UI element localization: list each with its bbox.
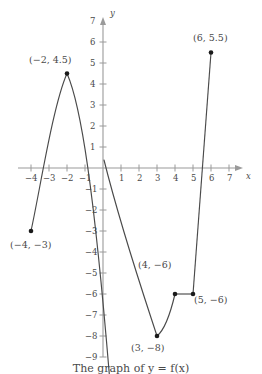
- x-tick-label-1: 1: [119, 174, 124, 183]
- y-tick-label-neg9: −9: [85, 353, 98, 362]
- point-6-55: [209, 50, 214, 55]
- marked-points-group: [29, 50, 214, 338]
- point-label-6-55: (6, 5.5): [193, 33, 228, 43]
- x-tick-label-neg4: −4: [25, 174, 38, 183]
- curve-left-parabola: [31, 74, 109, 374]
- axes-group: [18, 17, 243, 357]
- x-tick-label-4: 4: [173, 174, 178, 183]
- point-label-4-neg6: (4, −6): [138, 260, 172, 270]
- point-label-neg2-45: (−2, 4.5): [29, 55, 72, 65]
- curve-middle-parabola: [104, 160, 175, 336]
- y-tick-label-6: 6: [90, 38, 95, 47]
- x-tick-label-3: 3: [155, 174, 160, 183]
- y-tick-label-neg3: −3: [85, 227, 98, 236]
- point-3-neg8: [155, 334, 160, 339]
- y-tick-label-5: 5: [90, 59, 95, 68]
- x-tick-label-5: 5: [191, 174, 196, 183]
- y-tick-label-neg8: −8: [85, 332, 98, 341]
- point-neg4-neg3: [29, 229, 34, 234]
- x-tick-label-neg3: −3: [43, 174, 56, 183]
- y-tick-label-neg4: −4: [85, 248, 98, 257]
- y-tick-label-neg1: −1: [85, 185, 98, 194]
- figure-caption: The graph of y = f(x): [0, 362, 262, 374]
- x-tick-label-2: 2: [137, 174, 142, 183]
- x-tick-label-6: 6: [209, 174, 214, 183]
- x-tick-label-neg1: −1: [79, 174, 92, 183]
- y-tick-label-4: 4: [90, 80, 95, 89]
- y-tick-label-neg6: −6: [85, 290, 98, 299]
- x-axis-arrowhead: [235, 165, 243, 171]
- point-label-5-neg6: (5, −6): [194, 295, 228, 305]
- y-tick-label-7: 7: [90, 17, 95, 26]
- x-tick-label-neg2: −2: [61, 174, 74, 183]
- x-axis-label: x: [246, 172, 251, 181]
- y-tick-label-2: 2: [90, 122, 95, 131]
- y-axis-label: y: [110, 9, 115, 18]
- point-label-neg4-neg3: (−4, −3): [10, 240, 51, 250]
- y-tick-label-1: 1: [90, 143, 95, 152]
- graph-figure: −4 −3 −2 −1 1 2 3 4 5 6 7 1 2 3 4 5 6 7 …: [0, 0, 262, 374]
- point-4-neg6: [173, 292, 178, 297]
- point-label-3-neg8: (3, −8): [131, 343, 165, 353]
- y-tick-label-neg5: −5: [85, 269, 98, 278]
- y-axis-arrowhead: [100, 17, 106, 25]
- x-tick-label-7: 7: [227, 174, 232, 183]
- y-tick-label-neg7: −7: [85, 311, 98, 320]
- y-tick-label-neg2: −2: [85, 206, 98, 215]
- point-neg2-45: [65, 71, 70, 76]
- y-tick-label-3: 3: [90, 101, 95, 110]
